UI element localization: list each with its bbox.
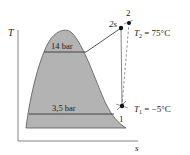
pressure-label-14-bar: 14 bar [51, 41, 73, 51]
t1-value: = −5°C [142, 104, 171, 114]
t2-value: = 75°C [142, 28, 170, 38]
temperature-label-t2: T2 = 75°C [134, 28, 170, 39]
temperature-label-t1: T1 = −5°C [134, 104, 171, 115]
ts-diagram: T s 14 bar 3,5 bar 2s 2 1 T2 = 75°C T1 =… [0, 0, 190, 155]
state-point-2s [119, 26, 123, 30]
state-label-2: 2 [126, 8, 131, 18]
state-label-1: 1 [119, 114, 124, 124]
state-label-2s: 2s [109, 19, 118, 29]
x-axis-label: s [135, 143, 139, 153]
condensing-superheat-line [86, 28, 121, 52]
y-axis-label: T [8, 27, 15, 38]
actual-compression-line [122, 23, 129, 106]
isentropic-compression-line [121, 28, 122, 106]
state-point-2 [127, 21, 131, 25]
state-point-1 [120, 104, 124, 108]
pressure-label-3-5-bar: 3,5 bar [52, 103, 76, 113]
saturation-dome [26, 30, 126, 128]
